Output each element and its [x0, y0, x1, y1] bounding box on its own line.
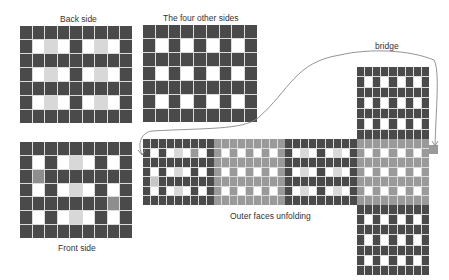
bridge-curve	[140, 51, 437, 154]
bridge-connector	[0, 0, 449, 280]
